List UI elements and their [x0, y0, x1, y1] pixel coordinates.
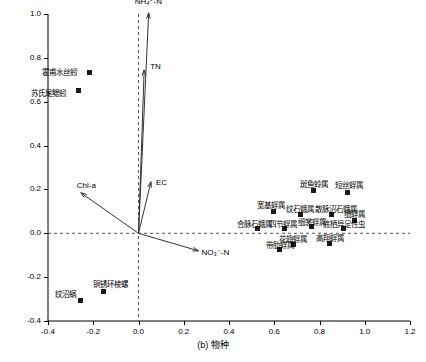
x-tick-label: -0.4 [34, 327, 62, 336]
y-tick-label: -0.4 [8, 316, 41, 325]
y-tick-label: -0.2 [8, 272, 41, 281]
x-tick [93, 321, 94, 325]
species-marker [311, 188, 316, 193]
x-tick-label: 0.2 [170, 327, 198, 336]
x-axis-title: (b) 物种 [0, 338, 426, 351]
x-tick-label: 1.2 [396, 327, 424, 336]
x-tick-label: 0.6 [260, 327, 288, 336]
y-tick-label: 0.0 [8, 228, 41, 237]
x-tick-label: 0.0 [125, 327, 153, 336]
y-tick [44, 146, 48, 147]
chart-container: -0.4-0.20.00.20.40.60.81.01.2-0.4-0.20.0… [0, 0, 426, 362]
env-vector [81, 193, 139, 234]
env-vector-label: NO₃⁻-N [201, 248, 229, 257]
env-vector-label: Chl-a [77, 181, 96, 190]
x-tick [48, 321, 49, 325]
x-tick-label: 0.4 [215, 327, 243, 336]
y-tick [44, 233, 48, 234]
y-tick-label: 0.8 [8, 53, 41, 62]
x-tick [184, 321, 185, 325]
env-vector [139, 70, 145, 233]
species-label: 纹沼蜗 [55, 288, 76, 299]
species-label: 苏氏尾鳃蚓 [31, 87, 66, 98]
species-marker [101, 289, 106, 294]
y-tick-label: 0.6 [8, 97, 41, 106]
x-tick [320, 321, 321, 325]
species-marker [87, 70, 92, 75]
species-label: 宽基蜉属 [257, 199, 285, 210]
y-tick [44, 321, 48, 322]
species-label: 霍甫水丝蚓 [42, 66, 77, 77]
y-tick-label: 0.2 [8, 184, 41, 193]
species-label: 高翔蜉属 [316, 232, 344, 243]
x-tick [410, 321, 411, 325]
species-label: 纹石蛾属 [286, 203, 314, 214]
x-tick [365, 321, 366, 325]
env-vector-label: EC [156, 178, 167, 187]
env-vector [139, 233, 199, 251]
y-tick [44, 189, 48, 190]
x-tick [229, 321, 230, 325]
species-marker [78, 298, 83, 303]
species-label: 斑鱼蛉属 [300, 178, 328, 189]
species-marker [345, 190, 350, 195]
species-label: 细裳蜉属 [298, 216, 326, 227]
y-tick [44, 14, 48, 15]
y-tick-label: 0.4 [8, 141, 41, 150]
species-label: 铜锈环棱螺 [93, 278, 128, 289]
env-vector-label: TN [150, 62, 161, 71]
y-tick [44, 277, 48, 278]
species-label: 底栖异足性虫 [323, 218, 365, 229]
x-tick-label: 1.0 [351, 327, 379, 336]
y-tick-label: 1.0 [8, 9, 41, 18]
species-label: 短丝蜉属 [335, 179, 363, 190]
species-label: 合脉石蛾属 [237, 218, 272, 229]
species-label: 四节蜉属 [269, 218, 297, 229]
y-tick [44, 58, 48, 59]
x-tick [139, 321, 140, 325]
x-tick [274, 321, 275, 325]
x-tick-label: -0.2 [79, 327, 107, 336]
y-tick [44, 102, 48, 103]
species-label: 带肋蜉属 [266, 239, 294, 250]
species-marker [76, 88, 81, 93]
env-vector-label: NH₄⁺-N [135, 0, 162, 6]
x-tick-label: 0.8 [306, 327, 334, 336]
